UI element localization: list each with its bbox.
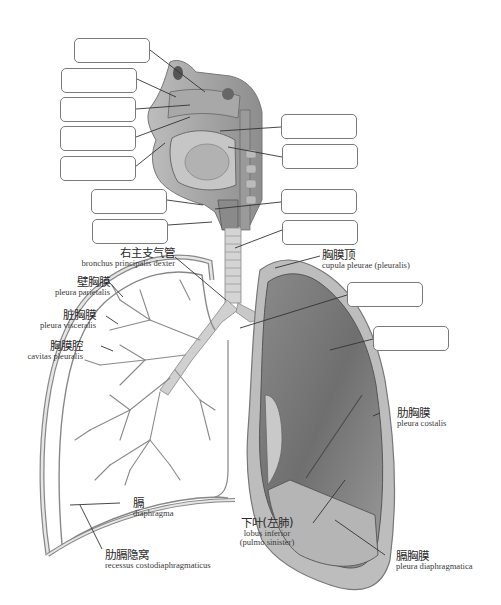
- answer-box-r3[interactable]: [281, 189, 357, 214]
- label-latin: cavitas pleuralis: [27, 352, 83, 361]
- answer-box-r5[interactable]: [347, 282, 423, 307]
- answer-box-r2[interactable]: [282, 144, 358, 169]
- label-latin: recessus costodiaphragmaticus: [105, 561, 211, 570]
- label-diaphragmatica: 膈胸膜 pleura diaphragmatica: [396, 550, 473, 571]
- label-lobus-inferior: 下叶(左肺) lobus inferior (pulmo sinister): [220, 517, 314, 547]
- label-cupula: 胸膜顶 cupula pleurae (pleuralis): [322, 249, 410, 270]
- label-latin: pleura costalis: [397, 419, 446, 428]
- label-costalis: 肋胸膜 pleura costalis: [397, 407, 446, 428]
- label-pleura-parietalis: 壁胸膜 pleura parietalis: [55, 276, 110, 297]
- answer-box-r4[interactable]: [282, 220, 358, 245]
- label-recessus: 肋膈隐窝 recessus costodiaphragmaticus: [105, 549, 211, 570]
- label-latin: pleura parietalis: [55, 288, 110, 297]
- label-latin-2: (pulmo sinister): [220, 538, 314, 547]
- answer-box-5[interactable]: [60, 156, 136, 181]
- label-pleura-visceralis: 脏胸膜 pleura visceralis: [40, 309, 96, 330]
- answer-box-r1[interactable]: [281, 114, 357, 139]
- label-bronchus: 右主支气管 bronchus principalis dexter: [81, 247, 175, 268]
- answer-box-4[interactable]: [60, 126, 136, 151]
- label-diaphragma: 膈 diaphragma: [133, 497, 174, 518]
- label-latin: cupula pleurae (pleuralis): [322, 261, 410, 270]
- answer-box-2[interactable]: [61, 68, 137, 93]
- answer-box-6[interactable]: [91, 189, 167, 214]
- answer-box-7[interactable]: [92, 219, 168, 244]
- label-cavitas: 胸膜腔 cavitas pleuralis: [27, 340, 83, 361]
- answer-box-1[interactable]: [74, 38, 150, 63]
- answer-box-r6[interactable]: [373, 326, 449, 351]
- label-latin: pleura diaphragmatica: [396, 562, 473, 571]
- answer-box-3[interactable]: [60, 97, 136, 122]
- label-latin: diaphragma: [133, 509, 174, 518]
- label-latin: bronchus principalis dexter: [81, 259, 175, 268]
- label-latin: pleura visceralis: [40, 321, 96, 330]
